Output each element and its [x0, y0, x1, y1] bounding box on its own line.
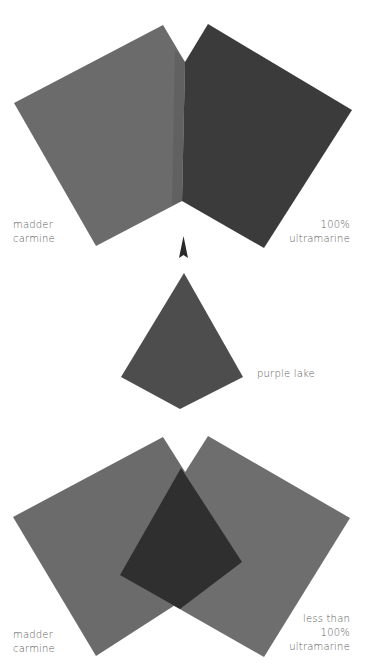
bottom-right-label: less than 100% ultramarine	[289, 612, 350, 654]
label-line: madder	[13, 218, 55, 232]
color-mixing-diagram	[0, 0, 372, 664]
top-right-label: 100% ultramarine	[289, 218, 350, 246]
label-line: carmine	[13, 232, 55, 246]
arrow-up-icon	[179, 236, 188, 258]
label-line: madder	[13, 628, 55, 642]
middle-label: purple lake	[257, 367, 315, 381]
top-left-label: madder carmine	[13, 218, 55, 246]
ultramarine-100-square	[182, 24, 352, 248]
label-line: 100%	[289, 626, 350, 640]
purple-lake-kite	[121, 273, 243, 409]
label-line: less than	[289, 612, 350, 626]
bottom-left-label: madder carmine	[13, 628, 55, 656]
middle-panel	[121, 273, 243, 409]
label-line: ultramarine	[289, 640, 350, 654]
top-panel	[14, 24, 352, 248]
label-line: 100%	[289, 218, 350, 232]
label-line: purple lake	[257, 367, 315, 381]
madder-carmine-square-top	[14, 25, 185, 246]
label-line: ultramarine	[289, 232, 350, 246]
label-line: carmine	[13, 642, 55, 656]
